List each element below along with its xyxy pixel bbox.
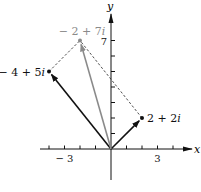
point-z1 bbox=[47, 70, 51, 74]
point-sum bbox=[78, 39, 82, 43]
point-label-sum: − 2 + 7i bbox=[59, 25, 105, 38]
x-axis-label: x bbox=[194, 143, 201, 156]
x-tick-label: − 3 bbox=[56, 153, 74, 164]
point-label-z1: − 4 + 5i bbox=[0, 66, 45, 79]
y-axis-label: y bbox=[106, 0, 114, 13]
x-tick-label: 3 bbox=[154, 153, 160, 164]
point-label-z2: 2 + 2i bbox=[147, 112, 181, 125]
complex-plane-diagram: x y − 337 − 4 + 5i2 + 2i− 2 + 7i bbox=[0, 0, 201, 192]
parallelogram-edges bbox=[49, 41, 142, 119]
vector-z1 bbox=[51, 75, 111, 149]
dashed-edge bbox=[49, 41, 80, 72]
point-z2 bbox=[140, 116, 144, 120]
vector-z2 bbox=[111, 121, 139, 149]
